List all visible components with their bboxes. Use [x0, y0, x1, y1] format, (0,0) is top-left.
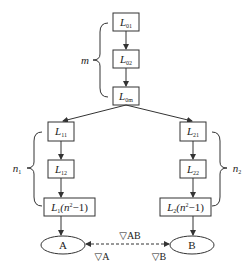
svg-text:L1(n2−1): L1(n2−1): [50, 201, 88, 214]
svg-text:L2(n2−1): L2(n2−1): [166, 201, 204, 214]
brace-label-m: m: [81, 54, 89, 66]
node-label: L: [54, 163, 61, 175]
node-L1n: L1(n2−1): [44, 198, 95, 216]
node-L21: L21: [180, 122, 206, 141]
node-subscript: 0m: [125, 97, 133, 103]
node-L11: L11: [48, 122, 74, 141]
node-subscript: 12: [61, 170, 67, 176]
gradient-label-AB: ▽AB: [119, 230, 141, 241]
top-chain: L01 L02 L0m m: [81, 13, 139, 105]
gradient-label-A: ▽A: [95, 251, 111, 262]
cascade-diagram: L01 L02 L0m m L11: [0, 0, 252, 274]
node-tail: −1): [72, 201, 88, 214]
node-subscript: 22: [193, 170, 199, 176]
arrow-L0m-L21: [126, 105, 192, 121]
brace-n1-icon: [27, 132, 42, 206]
node-label: L: [119, 16, 126, 28]
node-L0m: L0m: [113, 87, 139, 105]
node-L22: L22: [180, 160, 206, 178]
node-L02: L02: [113, 50, 139, 68]
arrow-L0m-L11: [63, 105, 126, 121]
node-label: L: [118, 90, 125, 102]
terminal-B: B: [170, 236, 214, 254]
node-label: L: [166, 201, 173, 213]
node-subscript: 21: [193, 132, 199, 138]
node-subscript: 02: [126, 60, 132, 66]
terminal-label-B: B: [188, 239, 195, 251]
node-subscript: 11: [61, 132, 67, 138]
node-label: L: [119, 53, 126, 65]
node-L01: L01: [113, 13, 139, 31]
brace-label-n2: n2: [233, 162, 242, 175]
right-chain: L21 L22 L2(n2−1) n2: [160, 122, 241, 235]
node-label: L: [54, 125, 61, 137]
terminal-A: A: [41, 236, 85, 254]
gradient-label-B: ▽B: [152, 251, 167, 262]
brace-label-sub: 2: [238, 169, 241, 175]
left-chain: L11 L12 L1(n2−1) n1: [13, 122, 95, 235]
node-subscript: 01: [126, 23, 132, 29]
node-label: L: [186, 125, 193, 137]
node-label: L: [50, 201, 57, 213]
brace-label-sub: 1: [18, 169, 21, 175]
node-L2n: L2(n2−1): [160, 198, 211, 216]
brace-m-icon: [93, 23, 108, 97]
terminal-label-A: A: [59, 239, 67, 251]
node-L12: L12: [48, 160, 74, 178]
node-tail: −1): [188, 201, 204, 214]
node-label: L: [186, 163, 193, 175]
brace-label-n1: n1: [13, 162, 22, 175]
brace-n2-icon: [212, 132, 227, 206]
